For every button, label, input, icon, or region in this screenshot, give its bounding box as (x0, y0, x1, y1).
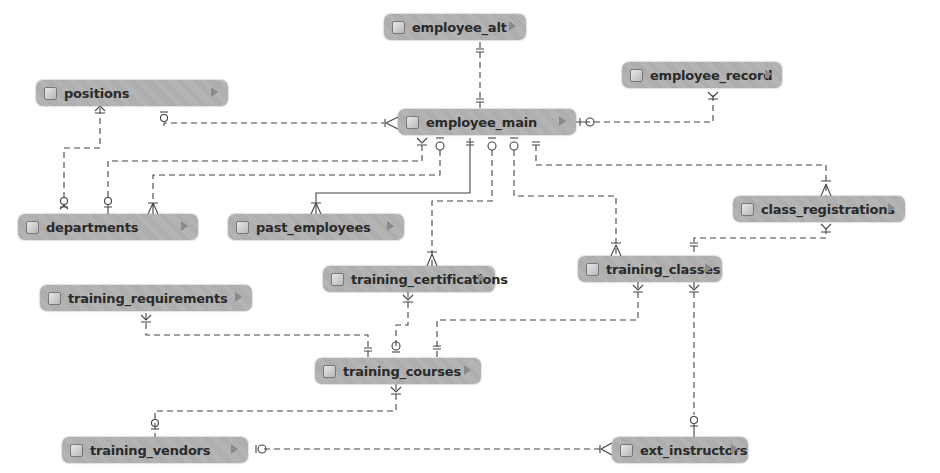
entity-label: training_vendors (90, 443, 210, 458)
entity-training-vendors[interactable]: training_vendors (62, 437, 248, 463)
table-icon (44, 87, 57, 100)
expand-arrow-icon[interactable] (387, 221, 394, 231)
entity-label: employee_alt (412, 20, 507, 35)
table-icon (586, 263, 599, 276)
table-icon (70, 444, 83, 457)
expand-arrow-icon[interactable] (731, 444, 738, 454)
table-icon (323, 365, 336, 378)
entity-departments[interactable]: departments (18, 214, 198, 240)
entity-positions[interactable]: positions (36, 80, 228, 106)
entity-label: training_courses (343, 364, 461, 379)
rel-employee-main-training-classes[interactable] (514, 150, 616, 256)
expand-arrow-icon[interactable] (231, 444, 238, 454)
table-icon (620, 444, 633, 457)
table-icon (630, 69, 643, 82)
expand-arrow-icon[interactable] (181, 221, 188, 231)
rel-training-classes-training-courses[interactable] (437, 282, 638, 358)
entity-label: past_employees (256, 220, 371, 235)
rel-class-registrations-training-classes[interactable] (694, 228, 826, 256)
entity-training-courses[interactable]: training_courses (315, 358, 481, 384)
er-diagram-canvas: employee_alt positions employee_record e… (0, 0, 940, 473)
entity-employee-main[interactable]: employee_main (398, 109, 576, 135)
table-icon (331, 273, 344, 286)
table-icon (406, 116, 419, 129)
entity-ext-instructors[interactable]: ext_instructors (612, 437, 748, 463)
entity-label: class_registrations (761, 202, 895, 217)
rel-positions-departments[interactable] (64, 108, 100, 198)
rel-employee-main-past-employees[interactable] (311, 138, 474, 214)
table-icon (26, 221, 39, 234)
entity-employee-alt[interactable]: employee_alt (384, 14, 526, 40)
entity-label: departments (46, 220, 138, 235)
table-icon (48, 292, 61, 305)
table-icon (236, 221, 249, 234)
entity-label: positions (64, 86, 129, 101)
rel-employee-main-class-registrations[interactable] (536, 145, 826, 196)
table-icon (392, 21, 405, 34)
rel-employee-record-employee-main[interactable] (586, 95, 713, 122)
entity-label: training_requirements (68, 291, 227, 306)
expand-arrow-icon[interactable] (211, 87, 218, 97)
expand-arrow-icon[interactable] (559, 116, 566, 126)
rel-employee-main-training-certifications[interactable] (432, 150, 492, 266)
entity-training-certifications[interactable]: training_certifications (323, 266, 495, 292)
expand-arrow-icon[interactable] (509, 21, 516, 31)
rel-training-requirements-training-courses[interactable] (146, 313, 368, 358)
entity-label: employee_main (426, 115, 537, 130)
rel-training-certifications-training-courses[interactable] (396, 292, 408, 350)
expand-arrow-icon[interactable] (478, 273, 485, 283)
expand-arrow-icon[interactable] (888, 203, 895, 213)
entity-past-employees[interactable]: past_employees (228, 214, 404, 240)
rel-training-courses-training-vendors[interactable] (155, 384, 396, 437)
table-icon (741, 203, 754, 216)
expand-arrow-icon[interactable] (705, 263, 712, 273)
entity-label: employee_record (650, 68, 772, 83)
rel-employee-main-departments-1[interactable] (108, 145, 422, 198)
entity-training-requirements[interactable]: training_requirements (40, 285, 252, 311)
expand-arrow-icon[interactable] (765, 69, 772, 79)
expand-arrow-icon[interactable] (464, 365, 471, 375)
entity-label: training_classes (606, 262, 720, 277)
entity-employee-record[interactable]: employee_record (622, 62, 782, 88)
rel-positions-employee-main[interactable] (164, 123, 384, 126)
expand-arrow-icon[interactable] (235, 292, 242, 302)
entity-training-classes[interactable]: training_classes (578, 256, 722, 282)
entity-class-registrations[interactable]: class_registrations (733, 196, 905, 222)
